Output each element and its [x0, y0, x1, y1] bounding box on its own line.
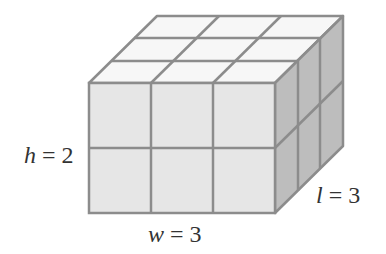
width-label: w = 3 [148, 221, 202, 247]
unit-cube-prism-diagram: h = 2 w = 3 l = 3 [0, 0, 386, 254]
height-label: h = 2 [24, 142, 74, 168]
length-label: l = 3 [316, 182, 360, 208]
